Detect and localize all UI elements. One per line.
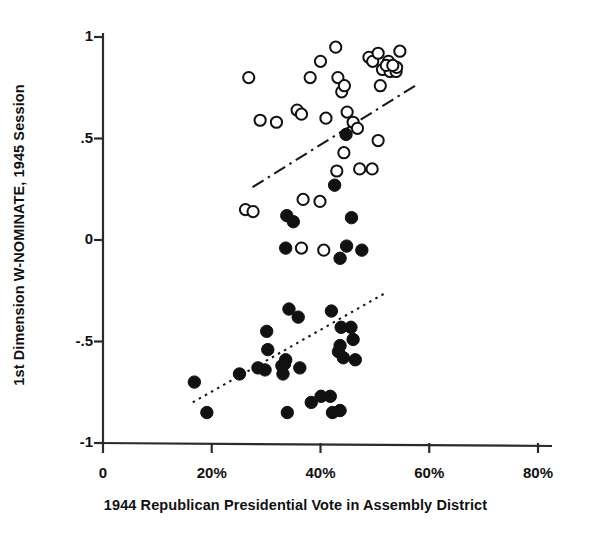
data-point-filled bbox=[349, 354, 361, 366]
data-point-open bbox=[296, 109, 307, 120]
data-point-filled bbox=[201, 406, 213, 418]
y-tick-label: -1 bbox=[51, 433, 93, 450]
data-point-open bbox=[354, 163, 365, 174]
x-axis-label: 1944 Republican Presidential Vote in Ass… bbox=[0, 497, 591, 513]
data-point-filled bbox=[259, 364, 271, 376]
data-point-filled bbox=[337, 352, 349, 364]
y-tick-label: 1 bbox=[51, 27, 93, 44]
x-tick-label: 0 bbox=[73, 464, 133, 481]
data-point-filled bbox=[294, 362, 306, 374]
data-point-open bbox=[394, 46, 405, 57]
data-point-filled bbox=[324, 390, 336, 402]
data-point-filled bbox=[325, 305, 337, 317]
data-point-filled bbox=[334, 252, 346, 264]
data-point-filled bbox=[340, 240, 352, 252]
data-point-open bbox=[373, 135, 384, 146]
data-point-open bbox=[318, 245, 329, 256]
data-point-filled bbox=[262, 343, 274, 355]
x-tick-label: 20% bbox=[182, 464, 242, 481]
data-point-open bbox=[298, 194, 309, 205]
data-point-filled bbox=[345, 211, 357, 223]
chart-container: 1st Dimension W-NOMINATE, 1945 Session 1… bbox=[0, 0, 591, 542]
data-point-open bbox=[352, 123, 363, 134]
data-point-open bbox=[271, 117, 282, 128]
data-point-open bbox=[305, 72, 316, 83]
data-point-filled bbox=[334, 339, 346, 351]
data-point-filled bbox=[281, 406, 293, 418]
data-point-open bbox=[255, 115, 266, 126]
data-point-filled bbox=[283, 303, 295, 315]
data-point-open bbox=[243, 72, 254, 83]
y-tick-label: 0 bbox=[51, 230, 93, 247]
data-point-filled bbox=[334, 404, 346, 416]
y-axis-label-wrapper: 1st Dimension W-NOMINATE, 1945 Session bbox=[4, 0, 34, 470]
data-point-open bbox=[320, 113, 331, 124]
scatter-plot-svg bbox=[0, 0, 591, 542]
data-point-open bbox=[375, 80, 386, 91]
y-tick-label: -.5 bbox=[51, 332, 93, 349]
data-point-filled bbox=[233, 368, 245, 380]
data-point-open bbox=[338, 147, 349, 158]
data-point-filled bbox=[356, 244, 368, 256]
data-point-filled bbox=[287, 216, 299, 228]
x-tick-label: 60% bbox=[399, 464, 459, 481]
data-point-open bbox=[339, 80, 350, 91]
data-point-open bbox=[387, 60, 398, 71]
data-points bbox=[188, 42, 405, 419]
data-point-open bbox=[314, 196, 325, 207]
data-point-open bbox=[315, 56, 326, 67]
data-point-filled bbox=[328, 179, 340, 191]
data-point-filled bbox=[278, 358, 290, 370]
data-point-open bbox=[330, 42, 341, 53]
x-tick-label: 40% bbox=[291, 464, 351, 481]
data-point-filled bbox=[345, 321, 357, 333]
data-point-open bbox=[331, 165, 342, 176]
data-point-open bbox=[373, 48, 384, 59]
data-point-filled bbox=[260, 325, 272, 337]
y-axis-label: 1st Dimension W-NOMINATE, 1945 Session bbox=[11, 84, 27, 385]
data-point-open bbox=[367, 163, 378, 174]
data-point-filled bbox=[188, 376, 200, 388]
data-point-filled bbox=[340, 128, 352, 140]
data-point-open bbox=[296, 243, 307, 254]
data-point-open bbox=[247, 206, 258, 217]
data-point-filled bbox=[347, 333, 359, 345]
y-tick-label: .5 bbox=[51, 129, 93, 146]
data-point-filled bbox=[280, 242, 292, 254]
x-tick-label: 80% bbox=[508, 464, 568, 481]
